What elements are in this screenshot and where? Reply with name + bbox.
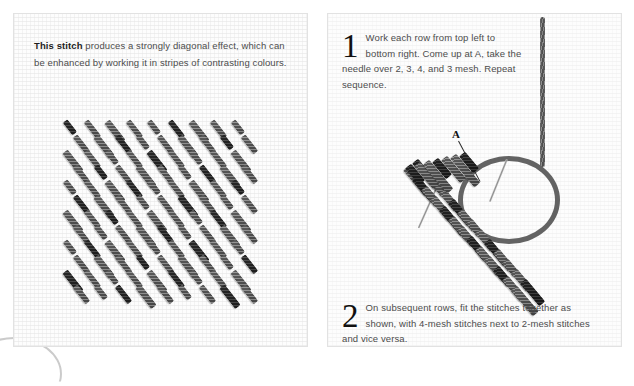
stitch-unit — [178, 164, 193, 180]
step-1-number: 1 — [342, 31, 359, 61]
stitch-unit — [115, 284, 133, 304]
stitch-unit — [136, 134, 151, 150]
stitch-unit — [220, 254, 235, 270]
stitch-unit — [220, 194, 235, 210]
stitch-unit — [241, 134, 259, 154]
instruction-panel: 1Work each row from top left to bottom r… — [327, 13, 622, 347]
step-1-text: Work each row from top left to bottom ri… — [342, 32, 521, 90]
step-2-number: 2 — [342, 301, 359, 331]
step-2-block: 2On subsequent rows, fit the stitches to… — [342, 300, 594, 347]
stitch-unit — [147, 119, 162, 135]
label-a: A — [452, 128, 460, 140]
caption-lead: This stitch — [34, 40, 83, 51]
stitch-unit — [220, 134, 235, 150]
stitch-unit — [94, 284, 109, 300]
stitch-unit — [199, 284, 217, 304]
stitch-unit — [231, 119, 246, 135]
stitch-unit — [94, 164, 109, 180]
stitch-unit — [136, 254, 151, 270]
stitch-sample-image — [71, 122, 261, 302]
stitch-unit — [94, 224, 109, 240]
stitch-unit — [178, 224, 193, 240]
stitch-unit — [178, 284, 193, 300]
stitch-unit — [241, 194, 259, 214]
thread-vertical — [540, 17, 545, 167]
sample-caption: This stitch produces a strongly diagonal… — [34, 37, 292, 71]
stitch-unit — [241, 254, 259, 274]
step-2-text: On subsequent rows, fit the stitches tog… — [342, 302, 590, 344]
stitch-sample-panel: This stitch produces a strongly diagonal… — [13, 13, 308, 347]
stitch-unit — [136, 194, 151, 210]
step-1-block: 1Work each row from top left to bottom r… — [342, 30, 522, 92]
